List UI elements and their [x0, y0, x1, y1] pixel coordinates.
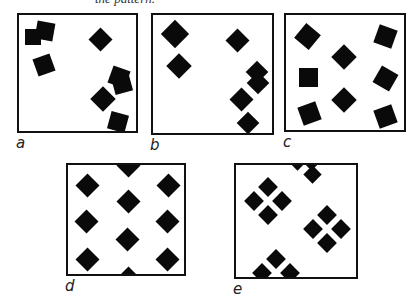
- square-shape: [156, 173, 180, 197]
- panel-label-a: a: [16, 134, 25, 152]
- square-shape: [303, 165, 321, 183]
- square-shape: [266, 249, 286, 269]
- square-shape: [297, 101, 321, 125]
- square-shape: [373, 104, 397, 128]
- square-shape: [237, 112, 260, 135]
- square-shape: [331, 87, 356, 112]
- square-shape: [372, 65, 398, 91]
- panel-c: [284, 13, 406, 132]
- square-shape: [107, 111, 129, 133]
- panel-e: [234, 163, 358, 279]
- panel-label-e: e: [233, 280, 242, 298]
- square-shape: [166, 53, 191, 78]
- square-shape: [303, 219, 323, 239]
- panel-a: [17, 13, 138, 133]
- panel-label-c: c: [283, 133, 291, 151]
- square-shape: [225, 28, 249, 52]
- square-shape: [74, 209, 98, 233]
- square-shape: [32, 53, 55, 76]
- square-shape: [155, 209, 179, 233]
- panel-d: [66, 163, 186, 276]
- square-shape: [317, 205, 337, 225]
- square-shape: [331, 219, 351, 239]
- square-shape: [161, 20, 189, 48]
- square-shape: [258, 177, 278, 197]
- square-shape: [90, 86, 115, 111]
- square-shape: [288, 163, 306, 170]
- square-shape: [75, 173, 99, 197]
- square-shape: [272, 191, 292, 211]
- square-shape: [116, 163, 140, 177]
- square-shape: [88, 27, 112, 51]
- square-shape: [244, 191, 264, 211]
- square-shape: [258, 205, 278, 225]
- panel-label-d: d: [65, 277, 75, 295]
- square-shape: [25, 29, 41, 45]
- square-shape: [317, 233, 337, 253]
- square-shape: [373, 24, 397, 48]
- square-shape: [111, 73, 133, 95]
- square-shape: [75, 247, 99, 271]
- figure-caption: the pattern.: [95, 0, 155, 7]
- square-shape: [252, 263, 272, 279]
- panel-b: [151, 13, 274, 135]
- square-shape: [229, 87, 253, 111]
- square-shape: [116, 189, 140, 213]
- square-shape: [331, 44, 356, 69]
- panel-label-b: b: [150, 136, 160, 154]
- square-shape: [116, 266, 140, 276]
- square-shape: [280, 263, 300, 279]
- square-shape: [294, 23, 321, 50]
- square-shape: [299, 68, 318, 87]
- square-shape: [155, 247, 179, 271]
- square-shape: [115, 227, 139, 251]
